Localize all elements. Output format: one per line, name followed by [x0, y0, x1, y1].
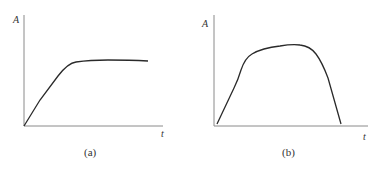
panel-b-x-label: t [363, 131, 366, 142]
panel-a [24, 15, 163, 126]
panel-a-x-label: t [161, 128, 164, 139]
panel-a-y-label: A [13, 14, 19, 25]
panel-b-caption: (b) [282, 146, 295, 158]
panel-a-caption: (a) [84, 146, 96, 158]
panel-b-curve [217, 45, 341, 124]
panel-b-y-label: A [202, 18, 208, 29]
panel-a-curve [24, 60, 148, 126]
panel-b [214, 15, 368, 126]
figure-canvas [0, 0, 375, 169]
